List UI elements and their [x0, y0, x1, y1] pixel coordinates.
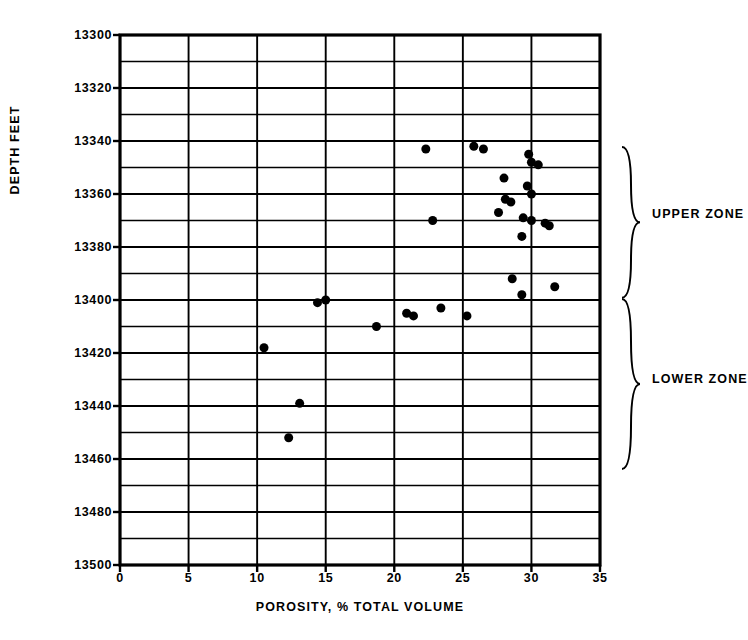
- x-tick-label-text: 0: [100, 572, 140, 585]
- data-point: [313, 298, 322, 307]
- x-tick-label: 20: [374, 572, 414, 587]
- y-tick-label: 13400: [44, 294, 112, 307]
- data-point: [436, 303, 445, 312]
- plot-canvas: [0, 0, 748, 640]
- y-tick-label: 13340: [44, 135, 112, 148]
- y-tick-label: 13460: [44, 453, 112, 466]
- data-point: [517, 290, 526, 299]
- data-point: [517, 232, 526, 241]
- x-tick-label: 0: [100, 572, 140, 587]
- y-tick-label: 13500: [44, 559, 112, 572]
- y-tick-label: 13420: [44, 347, 112, 360]
- y-tick-label-text: 13480: [48, 506, 112, 519]
- data-point: [527, 190, 536, 199]
- data-point: [479, 144, 488, 153]
- x-tick-label-text: 10: [237, 572, 277, 585]
- x-tick-label: 35: [580, 572, 620, 587]
- x-tick-label-text: 25: [443, 572, 483, 585]
- data-point: [524, 150, 533, 159]
- x-tick-label: 10: [237, 572, 277, 587]
- data-point: [545, 221, 554, 230]
- data-point: [469, 142, 478, 151]
- porosity-depth-scatter-chart: DEPTH FEET POROSITY, % TOTAL VOLUME 1330…: [0, 0, 748, 640]
- data-point: [409, 311, 418, 320]
- y-tick-label: 13480: [44, 506, 112, 519]
- x-tick-label: 5: [169, 572, 209, 587]
- x-tick-label-text: 30: [511, 572, 551, 585]
- y-tick-label-text: 13440: [48, 400, 112, 413]
- zone-label-upper: UPPER ZONE: [652, 207, 744, 221]
- brace-upper-zone: [622, 147, 640, 298]
- data-point: [508, 274, 517, 283]
- y-tick-label: 13380: [44, 241, 112, 254]
- x-tick-label: 30: [511, 572, 551, 587]
- data-point: [500, 174, 509, 183]
- data-point: [494, 208, 503, 217]
- data-point: [519, 213, 528, 222]
- x-tick-label: 25: [443, 572, 483, 587]
- y-tick-label-text: 13460: [48, 453, 112, 466]
- data-point: [534, 160, 543, 169]
- data-point: [506, 197, 515, 206]
- y-tick-label-text: 13340: [48, 135, 112, 148]
- y-tick-label-text: 13380: [48, 241, 112, 254]
- x-tick-label: 15: [306, 572, 346, 587]
- x-tick-label-text: 5: [169, 572, 209, 585]
- y-tick-label: 13440: [44, 400, 112, 413]
- data-point: [527, 216, 536, 225]
- y-tick-label: 13300: [44, 29, 112, 42]
- data-point: [523, 182, 532, 191]
- data-point: [550, 282, 559, 291]
- y-tick-label-text: 13420: [48, 347, 112, 360]
- data-point: [428, 216, 437, 225]
- y-tick-label: 13360: [44, 188, 112, 201]
- zone-label-lower: LOWER ZONE: [652, 372, 748, 386]
- y-tick-label: 13320: [44, 82, 112, 95]
- data-point: [260, 343, 269, 352]
- data-point: [284, 433, 293, 442]
- x-tick-label-text: 15: [306, 572, 346, 585]
- data-point: [295, 399, 304, 408]
- data-point: [462, 311, 471, 320]
- y-tick-label-text: 13320: [48, 82, 112, 95]
- data-point: [421, 144, 430, 153]
- chart-page: DEPTH FEET POROSITY, % TOTAL VOLUME 1330…: [0, 0, 748, 640]
- y-tick-label-text: 13500: [48, 559, 112, 572]
- x-tick-label-text: 20: [374, 572, 414, 585]
- data-point: [321, 296, 330, 305]
- brace-lower-zone: [622, 299, 640, 469]
- y-tick-label-text: 13300: [48, 29, 112, 42]
- y-tick-label-text: 13400: [48, 294, 112, 307]
- data-point: [372, 322, 381, 331]
- y-tick-label-text: 13360: [48, 188, 112, 201]
- x-tick-label-text: 35: [580, 572, 620, 585]
